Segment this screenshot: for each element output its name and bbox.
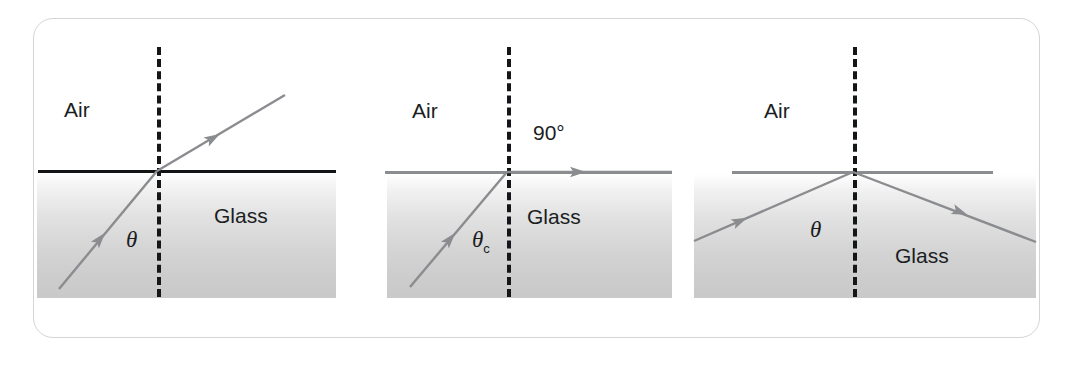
normal-dashed-line-panel3 [853, 47, 857, 297]
interface-line-panel1 [38, 170, 336, 173]
label-ninety-degrees-panel2: 90° [533, 122, 565, 143]
label-glass-panel1: Glass [214, 205, 268, 226]
figure-root: Air Glass θ Air 90° Glass θc Air Glass θ [0, 0, 1074, 365]
label-theta-c-panel2: θc [472, 228, 490, 255]
label-glass-panel3: Glass [895, 245, 949, 266]
theta-glyph-panel2: θ [472, 227, 483, 252]
normal-dashed-line-panel1 [157, 47, 161, 297]
interface-line-panel3 [732, 171, 993, 174]
label-air-panel3: Air [764, 100, 790, 121]
normal-dashed-line-panel2 [507, 47, 511, 297]
theta-subscript-panel2: c [483, 241, 490, 256]
glass-region-panel1 [37, 173, 336, 298]
interface-line-panel2 [385, 171, 672, 174]
glass-region-panel2 [387, 174, 672, 298]
label-air-panel1: Air [64, 99, 90, 120]
label-theta-panel1: θ [126, 228, 137, 251]
glass-region-panel3 [694, 174, 1036, 298]
label-glass-panel2: Glass [527, 206, 581, 227]
label-air-panel2: Air [412, 100, 438, 121]
label-theta-panel3: θ [810, 218, 821, 241]
